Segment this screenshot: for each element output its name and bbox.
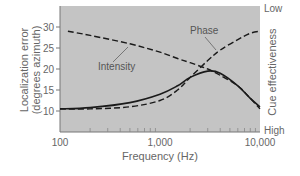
x-axis-title: Frequency (Hz)	[122, 150, 198, 162]
annotation-phase: Phase	[190, 25, 219, 36]
y2-tick-high: High	[264, 125, 285, 136]
x-tick-label: 1,000	[147, 137, 172, 148]
y-tick-label: 25	[43, 43, 55, 54]
x-tick-label: 100	[52, 137, 69, 148]
y2-tick-low: Low	[264, 3, 283, 14]
y2-axis-title: Cue effectiveness	[266, 28, 278, 116]
y-ticks: 1015202530	[43, 22, 60, 117]
y-tick-label: 10	[43, 106, 55, 117]
plot-area	[60, 6, 260, 132]
y-axis-title-line1: Localization error	[18, 27, 30, 112]
y-tick-label: 15	[43, 85, 55, 96]
y-tick-label: 20	[43, 64, 55, 75]
y-tick-label: 30	[43, 22, 55, 33]
y-axis-title-line2: (degrees azimuth)	[30, 26, 42, 115]
annotation-intensity: Intensity	[98, 61, 135, 72]
chart: 1015202530 1001,00010,000 Phase Intensit…	[0, 0, 300, 176]
x-tick-label: 10,000	[245, 137, 276, 148]
